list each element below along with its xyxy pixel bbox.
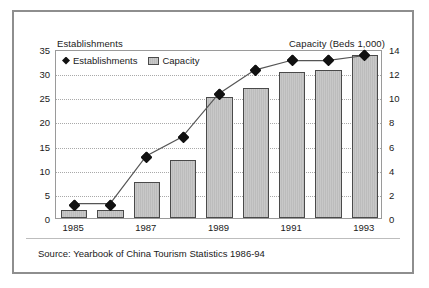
- x-axis-tick-label: 1985: [63, 222, 84, 233]
- line-series-establishments: [56, 51, 381, 218]
- right-axis-tick-label: 10: [389, 93, 400, 104]
- right-axis-tick-label: 4: [389, 165, 394, 176]
- legend-item-establishments: Establishments: [62, 55, 137, 66]
- right-axis-ticks: 02468101214: [389, 50, 415, 219]
- left-axis-ticks: 05101520253035: [24, 50, 50, 219]
- left-axis-tick-label: 5: [45, 189, 50, 200]
- left-axis-tick-label: 0: [45, 214, 50, 225]
- left-axis-title: Establishments: [57, 38, 123, 49]
- diamond-marker-icon: [62, 57, 70, 65]
- line-path: [74, 56, 363, 204]
- x-axis-ticks: 19851987198919911993: [55, 222, 382, 236]
- right-axis-tick-label: 8: [389, 117, 394, 128]
- legend-item-capacity: Capacity: [148, 55, 199, 66]
- chart-figure: Establishments Capacity (Beds 1,000) 051…: [0, 0, 429, 288]
- x-axis-tick-label: 1989: [208, 222, 229, 233]
- left-axis-tick-label: 15: [39, 141, 50, 152]
- left-axis-tick-label: 25: [39, 93, 50, 104]
- plot-area: [55, 50, 382, 219]
- legend-label-establishments: Establishments: [73, 55, 137, 66]
- x-axis-tick-label: 1987: [135, 222, 156, 233]
- left-axis-tick-label: 35: [39, 45, 50, 56]
- left-axis-tick-label: 20: [39, 117, 50, 128]
- right-axis-tick-label: 2: [389, 189, 394, 200]
- right-axis-title: Capacity (Beds 1,000): [289, 38, 385, 49]
- right-axis-tick-label: 0: [389, 214, 394, 225]
- right-axis-tick-label: 6: [389, 141, 394, 152]
- left-axis-tick-label: 10: [39, 165, 50, 176]
- legend-label-capacity: Capacity: [162, 55, 199, 66]
- left-axis-tick-label: 30: [39, 69, 50, 80]
- source-note: Source: Yearbook of China Tourism Statis…: [38, 248, 265, 259]
- x-axis-tick-label: 1993: [353, 222, 374, 233]
- right-axis-tick-label: 12: [389, 69, 400, 80]
- right-axis-tick-label: 14: [389, 45, 400, 56]
- source-divider: [26, 238, 400, 239]
- chart-legend: Establishments Capacity: [62, 55, 199, 66]
- x-axis-tick-label: 1991: [281, 222, 302, 233]
- bar-swatch-icon: [148, 57, 159, 65]
